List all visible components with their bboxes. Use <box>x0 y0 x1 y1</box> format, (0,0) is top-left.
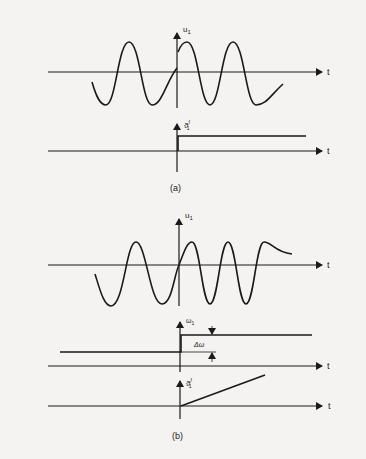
panel-a-caption: (a) <box>170 183 181 193</box>
t-axis-label: t <box>327 146 330 156</box>
panel-a: u1 t ϑf1 t (a) <box>48 25 330 193</box>
t-axis-label: t <box>327 67 330 77</box>
omega-axis-label: ω1 <box>186 317 194 326</box>
u1-axis-label: u1 <box>183 25 191 35</box>
phase-axis-label: ϑf1 <box>184 119 190 131</box>
panel-b-caption: (b) <box>172 431 183 441</box>
panel-b: u1 t Δω ω1 t ϑf1 t (b) <box>48 211 331 441</box>
t-axis-label: t <box>327 361 330 371</box>
sine-wave-left <box>95 242 179 306</box>
panel-b-u1-plot: u1 t <box>48 211 330 306</box>
sine-wave-right <box>178 42 283 105</box>
t-axis-label: t <box>328 401 331 411</box>
panel-b-frequency-plot: Δω ω1 t <box>48 317 330 372</box>
sine-wave-right <box>179 242 292 304</box>
delta-omega-label: Δω <box>193 341 205 348</box>
phase-step <box>178 136 306 151</box>
panel-a-phase-plot: ϑf1 t <box>48 119 330 172</box>
u1-axis-label: u1 <box>185 211 193 221</box>
phase-axis-label: ϑf1 <box>186 377 192 389</box>
signal-diagram: u1 t ϑf1 t (a) u1 t <box>0 0 366 459</box>
panel-a-u1-plot: u1 t <box>48 25 330 108</box>
panel-b-phase-plot: ϑf1 t <box>48 375 331 419</box>
phase-ramp <box>181 375 265 406</box>
t-axis-label: t <box>327 260 330 270</box>
sine-wave-left <box>92 42 177 105</box>
figure-page: u1 t ϑf1 t (a) u1 t <box>0 0 366 459</box>
frequency-step <box>60 335 312 352</box>
